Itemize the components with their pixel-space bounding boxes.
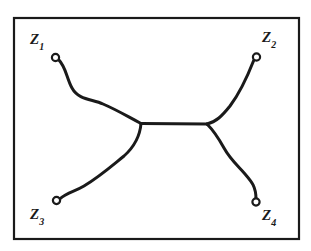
- endpoint-z1: [52, 54, 59, 61]
- edge-internal: [141, 124, 207, 125]
- node-label-z1-subscript: 1: [39, 41, 44, 52]
- node-label-z4: Z4: [262, 208, 276, 226]
- edge-z3-to-left-junction: [60, 124, 141, 199]
- edge-z4-to-right-junction: [207, 124, 256, 199]
- node-label-z1-base: Z: [30, 31, 39, 47]
- node-label-z3-base: Z: [30, 206, 39, 222]
- endpoint-z3: [53, 197, 60, 204]
- node-label-z4-subscript: 4: [271, 217, 276, 228]
- endpoints-group: [52, 53, 260, 205]
- node-label-z2: Z2: [262, 30, 276, 48]
- node-label-z3-subscript: 3: [39, 216, 44, 227]
- endpoint-z4: [252, 198, 259, 205]
- edge-z2-to-right-junction: [207, 60, 254, 124]
- edges-group: [59, 60, 256, 199]
- endpoint-z2: [253, 53, 260, 60]
- edge-z1-to-left-junction: [59, 60, 141, 124]
- node-label-z3: Z3: [30, 207, 44, 225]
- figure-container: Z1 Z2 Z3 Z4: [0, 0, 311, 251]
- node-label-z2-base: Z: [262, 29, 271, 45]
- node-label-z4-base: Z: [262, 207, 271, 223]
- node-label-z1: Z1: [30, 32, 44, 50]
- node-label-z2-subscript: 2: [271, 39, 276, 50]
